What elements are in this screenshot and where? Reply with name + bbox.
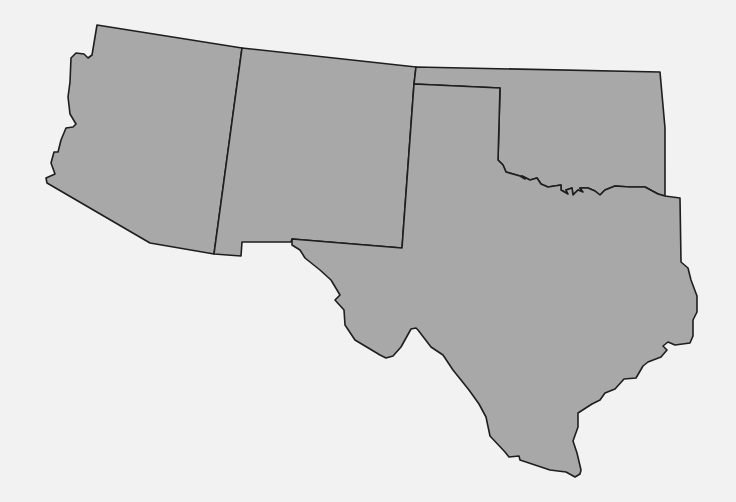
- state-new-mexico[interactable]: [214, 48, 416, 256]
- map-canvas: [0, 0, 736, 502]
- state-arizona[interactable]: [46, 25, 242, 254]
